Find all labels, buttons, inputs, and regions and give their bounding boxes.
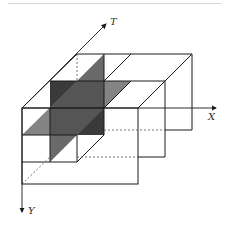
x-axis-label: X (207, 111, 216, 122)
t-axis-label: T (110, 16, 118, 27)
diagram-canvas: X Y T (0, 0, 230, 228)
y-axis-label: Y (28, 205, 36, 216)
